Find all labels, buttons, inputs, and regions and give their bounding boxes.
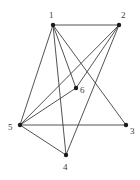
graph-edge bbox=[66, 25, 119, 155]
graph-node-5[interactable] bbox=[18, 123, 22, 127]
graph-node-label-5: 5 bbox=[8, 123, 13, 132]
graph-edge bbox=[20, 25, 119, 125]
graph-canvas bbox=[0, 0, 140, 180]
graph-edge bbox=[20, 125, 66, 155]
graph-edge bbox=[20, 88, 76, 125]
graph-edge bbox=[53, 25, 126, 125]
graph-node-label-3: 3 bbox=[130, 127, 135, 136]
graph-figure: 123456 bbox=[0, 0, 140, 180]
graph-edge bbox=[20, 25, 53, 125]
edge-layer bbox=[20, 25, 126, 155]
graph-node-3[interactable] bbox=[124, 123, 128, 127]
graph-node-1[interactable] bbox=[51, 23, 55, 27]
graph-node-6[interactable] bbox=[74, 86, 78, 90]
graph-node-4[interactable] bbox=[64, 153, 68, 157]
graph-node-label-6: 6 bbox=[80, 86, 85, 95]
graph-node-label-4: 4 bbox=[63, 163, 68, 172]
graph-node-label-1: 1 bbox=[49, 11, 54, 20]
graph-node-2[interactable] bbox=[117, 23, 121, 27]
graph-node-label-2: 2 bbox=[121, 11, 126, 20]
